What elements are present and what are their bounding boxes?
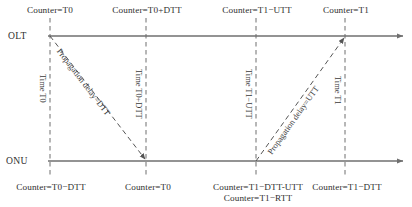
- upstream-propagation-arrow: [256, 38, 344, 161]
- top-label-e2: Counter=T1−UTT: [222, 5, 291, 15]
- top-label-e1: Counter=T0+DTT: [112, 5, 181, 15]
- time-label-e1: Time T0+DTT: [134, 69, 143, 119]
- top-label-e3: Counter=T1: [323, 5, 369, 15]
- diagram-canvas: [0, 0, 412, 207]
- top-label-e0: Counter=T0: [27, 5, 73, 15]
- timing-diagram: OLT ONU Counter=T0 Counter=T0+DTT Counte…: [0, 0, 412, 207]
- onu-axis-label: ONU: [6, 155, 28, 166]
- time-label-e3: Time T1: [333, 76, 342, 105]
- bottom-label-e3: Counter=T1−DTT: [312, 182, 381, 192]
- bottom-label-e2: Counter=T1−DTT-UTT: [213, 182, 303, 192]
- time-label-e0: Time T0: [38, 74, 47, 103]
- time-label-e2: Time T1−UTT: [244, 69, 253, 119]
- bottom-label-e0: Counter=T0−DTT: [16, 182, 85, 192]
- olt-axis-label: OLT: [8, 30, 27, 41]
- bottom-label-e1: Counter=T0: [125, 182, 171, 192]
- bottom-label-e2-alt: Counter=T1−RTT: [224, 193, 292, 203]
